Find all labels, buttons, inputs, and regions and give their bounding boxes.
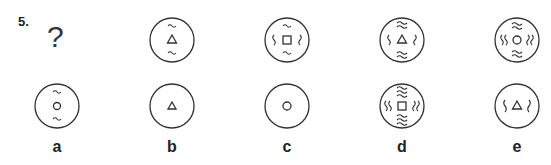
circle-square-triple-waves-icon: [377, 81, 427, 131]
circle-triangle-s-curves-icon: [492, 81, 542, 131]
option-c-figure[interactable]: [262, 81, 312, 131]
option-e-label[interactable]: e: [502, 138, 532, 156]
circle-circle-waves-icon: [32, 81, 82, 131]
sequence-figure-2: [147, 15, 197, 65]
question-number: 5.: [18, 14, 29, 29]
circle-triangle-double-waves-icon: [377, 15, 427, 65]
circle-circle-icon: [262, 81, 312, 131]
option-c-label[interactable]: c: [272, 138, 302, 156]
option-d-label[interactable]: d: [387, 138, 417, 156]
circle-triangle-icon: [147, 81, 197, 131]
option-e-figure[interactable]: [492, 81, 542, 131]
option-a-label[interactable]: a: [42, 138, 72, 156]
sequence-figure-4: [377, 15, 427, 65]
missing-figure-marker: ?: [47, 22, 64, 52]
sequence-figure-3: [262, 15, 312, 65]
option-b-figure[interactable]: [147, 81, 197, 131]
circle-circle-double-waves-icon: [492, 15, 542, 65]
option-b-label[interactable]: b: [157, 138, 187, 156]
option-a-figure[interactable]: [32, 81, 82, 131]
circle-triangle-waves-icon: [147, 15, 197, 65]
circle-square-waves-icon: [262, 15, 312, 65]
option-d-figure[interactable]: [377, 81, 427, 131]
sequence-figure-5: [492, 15, 542, 65]
